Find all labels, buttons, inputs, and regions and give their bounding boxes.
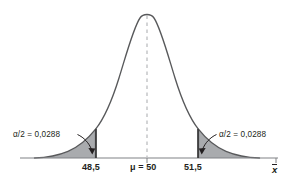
tick-label-upper-bound: 51,5	[184, 163, 202, 172]
x-bar-letter: x	[272, 164, 277, 175]
x-bar-glyph: x	[272, 165, 277, 175]
normal-distribution-figure: α/2 = 0,0288 α/2 = 0,0288 48,5 μ = 50 51…	[0, 0, 296, 191]
left-alpha-annotation-label: α/2 = 0,0288	[13, 131, 60, 139]
right-alpha-annotation-label: α/2 = 0,0288	[219, 131, 266, 139]
tick-label-lower-bound: 48,5	[82, 163, 100, 172]
tick-label-mean: μ = 50	[130, 163, 156, 172]
x-bar-overline	[272, 164, 277, 165]
axis-variable-label: x	[272, 165, 277, 175]
